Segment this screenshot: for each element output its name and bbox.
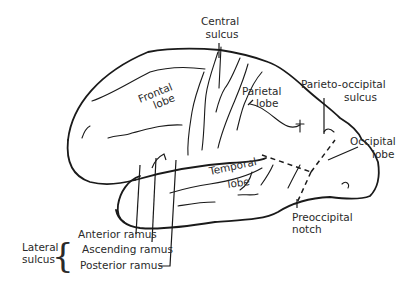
label-preoccipital-notch-line1: Preoccipital — [292, 211, 353, 223]
label-central-sulcus-line2: sulcus — [206, 28, 239, 40]
label-parieto-occipital-line1: Parieto-occipital — [301, 78, 386, 90]
label-posterior-ramus: Posterior ramus — [80, 259, 163, 271]
labels: Central sulcus Frontal lobe Parietal lob… — [22, 15, 396, 275]
label-ascending-ramus: Ascending ramus — [82, 243, 173, 255]
lateral-sulcus-brace: { — [52, 235, 74, 275]
label-temporal-lobe-line2: lobe — [227, 175, 251, 190]
label-central-sulcus-line1: Central — [201, 15, 239, 27]
label-preoccipital-notch-line2: notch — [292, 223, 322, 235]
label-occipital-lobe-line1: Occipital — [350, 135, 396, 147]
brain-lateral-view-diagram: Central sulcus Frontal lobe Parietal lob… — [0, 0, 410, 283]
label-anterior-ramus: Anterior ramus — [78, 228, 157, 240]
dashed-boundaries — [262, 140, 335, 205]
cerebrum-outline — [68, 49, 379, 229]
label-lateral-sulcus-line2: sulcus — [22, 253, 55, 265]
label-occipital-lobe-line2: lobe — [372, 148, 394, 160]
label-parietal-lobe-line2: lobe — [256, 97, 278, 109]
label-parieto-occipital-line2: sulcus — [344, 91, 377, 103]
label-parietal-lobe-line1: Parietal — [242, 85, 281, 97]
